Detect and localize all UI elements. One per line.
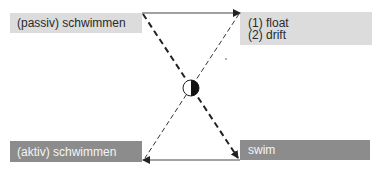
diagram-connectors [0,0,379,172]
artifact-dot [225,58,227,60]
half-filled-circle-icon [183,80,199,96]
